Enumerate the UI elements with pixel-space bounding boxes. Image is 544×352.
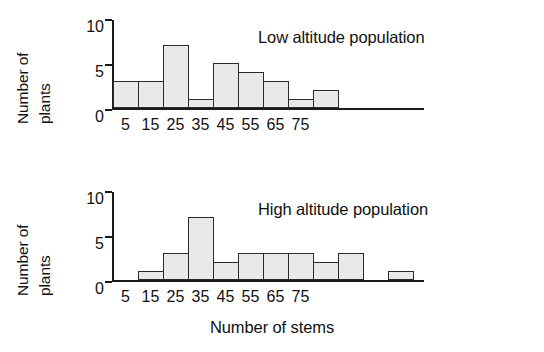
x-tick-label: 75 — [286, 288, 316, 306]
bar — [238, 72, 264, 108]
y-axis-label-high: Number of plants — [14, 186, 74, 296]
bar — [213, 262, 239, 280]
y-tick-label: 10 — [78, 191, 104, 207]
bar — [313, 90, 339, 108]
y-tick-label: 0 — [78, 109, 104, 125]
y-tick-labels-low: 1050 — [74, 6, 104, 116]
y-tickmark-10-high — [105, 191, 112, 193]
y-tick-label: 5 — [78, 64, 104, 80]
y-tick-label: 5 — [78, 236, 104, 252]
y-axis-label-line1: Number of — [14, 53, 32, 124]
y-tickmark-10-low — [105, 19, 112, 21]
bar — [163, 253, 189, 280]
y-tickmark-5-high — [105, 236, 112, 238]
bar — [338, 253, 364, 280]
y-axis-label-line2: plants — [36, 83, 54, 124]
x-tick-labels-high: 515253545556575 — [112, 288, 432, 310]
panel-title-low: Low altitude population — [258, 28, 425, 47]
chart-panel-high-altitude: Number of plants 1050 515253545556575 Hi… — [0, 178, 544, 328]
x-axis-line-high — [112, 280, 424, 282]
bar — [388, 271, 414, 280]
bar — [188, 217, 214, 280]
y-tick-labels-high: 1050 — [74, 178, 104, 288]
y-axis-label-line2: plants — [36, 255, 54, 296]
y-tickmark-5-low — [105, 64, 112, 66]
y-tick-label: 0 — [78, 281, 104, 297]
histogram-figure: Number of plants 1050 515253545556575 Lo… — [0, 0, 544, 352]
x-tick-label: 75 — [286, 116, 316, 134]
bar — [238, 253, 264, 280]
bar — [138, 271, 164, 280]
x-axis-line-low — [112, 108, 424, 110]
bar — [263, 81, 289, 108]
y-axis-label-line1: Number of — [14, 225, 32, 296]
bar — [263, 253, 289, 280]
bar — [188, 99, 214, 108]
bar — [113, 81, 139, 108]
bar — [138, 81, 164, 108]
panel-title-high: High altitude population — [258, 200, 428, 219]
bar — [163, 45, 189, 108]
bar — [213, 63, 239, 108]
chart-panel-low-altitude: Number of plants 1050 515253545556575 Lo… — [0, 6, 544, 156]
y-axis-label-low: Number of plants — [14, 14, 74, 124]
y-tickmark-0-low — [105, 109, 112, 111]
bar — [288, 99, 314, 108]
bar — [288, 253, 314, 280]
x-axis-label: Number of stems — [0, 318, 544, 337]
y-tick-label: 10 — [78, 19, 104, 35]
x-tick-labels-low: 515253545556575 — [112, 116, 432, 138]
bar — [313, 262, 339, 280]
y-tickmark-0-high — [105, 281, 112, 283]
